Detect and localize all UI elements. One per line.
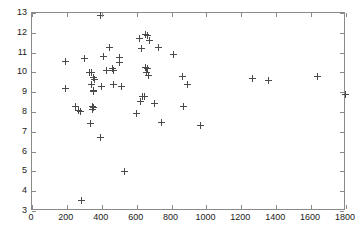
y-axis-tick-label: 13 — [0, 7, 27, 18]
data-point — [137, 98, 144, 105]
y-axis-tick-label: 11 — [0, 46, 27, 57]
x-axis-tick-top — [346, 13, 347, 17]
data-point — [197, 122, 204, 129]
y-axis-tick — [32, 33, 36, 34]
data-point — [184, 81, 191, 88]
y-axis-tick-right — [340, 72, 344, 73]
x-axis-tick-label: 600 — [128, 212, 143, 223]
scatter-plot-figure: 0200400600800100012001400160018003456789… — [0, 0, 363, 237]
data-point — [145, 72, 152, 79]
x-axis-tick — [346, 205, 347, 209]
data-point — [142, 31, 149, 38]
data-point — [109, 65, 116, 72]
x-axis-tick-top — [67, 13, 68, 17]
x-axis-tick-top — [241, 13, 242, 17]
data-point — [118, 83, 125, 90]
y-axis-tick-label: 10 — [0, 66, 27, 77]
x-axis-tick — [311, 205, 312, 209]
x-axis-tick-top — [311, 13, 312, 17]
x-axis-tick-top — [137, 13, 138, 17]
data-point — [180, 103, 187, 110]
y-axis-tick-right — [340, 152, 344, 153]
data-point — [144, 32, 151, 39]
y-axis-tick-right — [340, 13, 344, 14]
x-axis-tick-label: 1800 — [335, 212, 355, 223]
data-point — [72, 103, 79, 110]
data-point — [103, 67, 110, 74]
x-axis-tick-label: 800 — [163, 212, 178, 223]
data-point — [141, 93, 148, 100]
data-point — [139, 93, 146, 100]
y-axis-tick-label: 6 — [0, 145, 27, 156]
y-axis-tick-label: 5 — [0, 165, 27, 176]
x-axis-tick-label: 0 — [28, 212, 33, 223]
x-axis-tick-label: 200 — [58, 212, 73, 223]
data-point — [62, 85, 69, 92]
x-axis-tick-top — [206, 13, 207, 17]
data-point — [90, 74, 97, 81]
x-axis-tick — [172, 205, 173, 209]
data-point — [110, 67, 117, 74]
data-point — [98, 83, 105, 90]
x-axis-tick-top — [102, 13, 103, 17]
data-point — [100, 53, 107, 60]
data-point — [89, 103, 96, 110]
data-point — [179, 73, 186, 80]
x-axis-tick — [102, 205, 103, 209]
data-point — [86, 69, 93, 76]
data-point — [87, 120, 94, 127]
data-point — [158, 119, 165, 126]
data-point — [75, 107, 82, 114]
data-point — [249, 75, 256, 82]
y-axis-tick-label: 9 — [0, 86, 27, 97]
data-point — [106, 44, 113, 51]
data-point — [265, 77, 272, 84]
y-axis-tick-label: 12 — [0, 26, 27, 37]
y-axis-tick — [32, 132, 36, 133]
y-axis-tick-right — [340, 92, 344, 93]
data-point — [110, 81, 117, 88]
y-axis-tick-right — [340, 171, 344, 172]
data-point — [314, 73, 321, 80]
data-point — [144, 65, 151, 72]
data-point — [81, 55, 88, 62]
plot-area — [31, 12, 345, 210]
data-point — [89, 106, 96, 113]
y-axis-tick-label: 7 — [0, 125, 27, 136]
x-axis-tick-label: 1200 — [230, 212, 250, 223]
data-point — [97, 134, 104, 141]
y-axis-tick — [32, 13, 36, 14]
data-point — [146, 37, 153, 44]
y-axis-tick — [32, 191, 36, 192]
data-point — [90, 104, 97, 111]
x-axis-tick-top — [172, 13, 173, 17]
x-axis-tick-label: 1600 — [300, 212, 320, 223]
x-axis-tick-top — [276, 13, 277, 17]
data-point — [88, 69, 95, 76]
y-axis-tick-right — [340, 112, 344, 113]
x-axis-tick — [206, 205, 207, 209]
x-axis-tick-label: 400 — [93, 212, 108, 223]
data-point — [78, 197, 85, 204]
y-axis-tick-right — [340, 191, 344, 192]
x-axis-tick — [32, 205, 33, 209]
data-point — [133, 110, 140, 117]
data-point — [88, 81, 95, 88]
y-axis-tick — [32, 112, 36, 113]
x-axis-tick — [241, 205, 242, 209]
y-axis-tick-right — [340, 132, 344, 133]
data-point — [136, 35, 143, 42]
data-point — [142, 64, 149, 71]
data-point — [151, 100, 158, 107]
y-axis-tick — [32, 152, 36, 153]
x-axis-tick — [276, 205, 277, 209]
data-point — [116, 59, 123, 66]
data-point — [62, 58, 69, 65]
y-axis-tick — [32, 53, 36, 54]
y-axis-tick — [32, 72, 36, 73]
y-axis-tick — [32, 92, 36, 93]
data-point — [155, 44, 162, 51]
y-axis-tick-label: 8 — [0, 106, 27, 117]
data-point — [77, 108, 84, 115]
data-point — [143, 69, 150, 76]
